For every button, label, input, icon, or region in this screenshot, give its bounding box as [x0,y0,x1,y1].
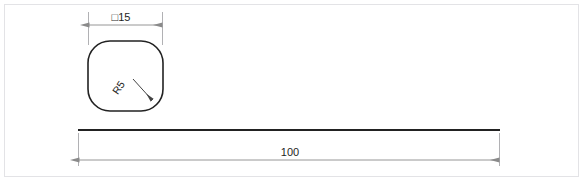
callout-radius-r5: R5 [109,78,127,96]
drawing-viewport: □15 R5 100 [0,0,583,187]
dimension-label-length: 100 [281,146,299,158]
technical-drawing-canvas: □15 R5 100 [0,0,583,187]
end-view-rounded-square [88,41,163,111]
callout-label-radius: R5 [109,78,127,96]
dimension-label-width: □15 [112,11,131,23]
leader-line-radius [133,79,152,100]
